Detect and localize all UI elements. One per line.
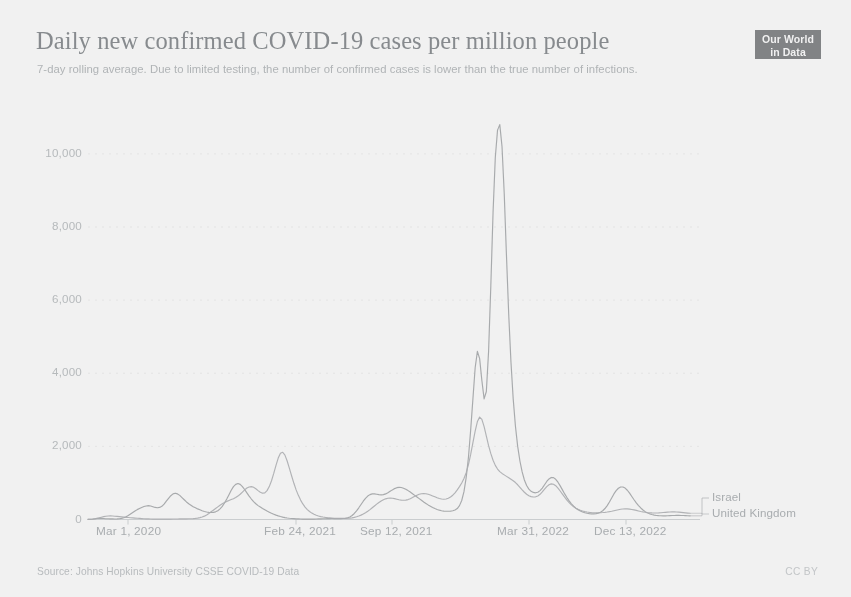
x-axis-tick-label: Mar 31, 2022 — [497, 524, 569, 538]
source-note: Source: Johns Hopkins University CSSE CO… — [37, 566, 299, 577]
series-line-israel — [88, 125, 690, 520]
y-axis-tick-label: 6,000 — [24, 292, 82, 305]
license-note[interactable]: CC BY — [785, 566, 818, 577]
legend-label-united-kingdom[interactable]: United Kingdom — [712, 506, 796, 519]
y-axis-tick-label: 2,000 — [24, 438, 82, 451]
y-axis-tick-label: 10,000 — [24, 146, 82, 159]
legend-label-israel[interactable]: Israel — [712, 490, 741, 503]
x-axis-tick-label: Sep 12, 2021 — [360, 524, 433, 538]
chart-page: Daily new confirmed COVID-19 cases per m… — [0, 0, 851, 597]
y-axis-tick-label: 8,000 — [24, 219, 82, 232]
y-axis-tick-label: 0 — [24, 512, 82, 525]
x-axis-tick-label: Feb 24, 2021 — [264, 524, 336, 538]
data-series-layer — [88, 125, 690, 520]
x-axis-tick-label: Dec 13, 2022 — [594, 524, 667, 538]
legend-connector — [690, 513, 709, 514]
gridlines — [88, 154, 700, 447]
series-line-united-kingdom — [88, 417, 690, 519]
legend-connectors — [690, 498, 709, 516]
x-axis-tick-label: Mar 1, 2020 — [96, 524, 161, 538]
y-axis-tick-label: 4,000 — [24, 365, 82, 378]
